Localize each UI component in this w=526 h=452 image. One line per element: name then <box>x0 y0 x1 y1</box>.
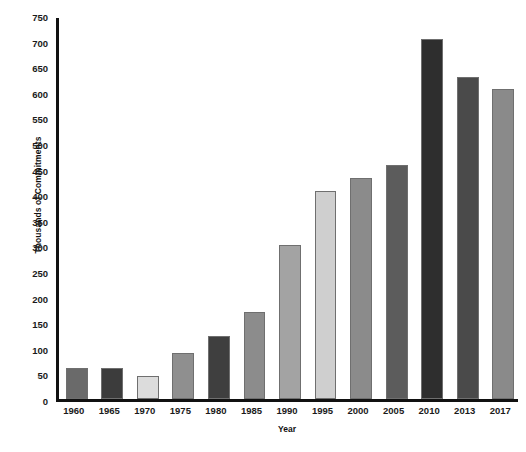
bar <box>66 368 88 399</box>
y-axis-tick-label: 200 <box>32 295 48 305</box>
y-axis-tick-label: 650 <box>32 64 48 74</box>
y-axis-tick-label: 0 <box>43 397 48 407</box>
bar <box>279 245 301 399</box>
x-axis-tick-labels: 1960196519701975198019851990199520002005… <box>56 405 518 421</box>
bar <box>315 191 337 399</box>
bars-layer <box>59 18 518 399</box>
bar <box>244 312 266 399</box>
y-axis-tick-label: 500 <box>32 141 48 151</box>
bar <box>421 39 443 399</box>
x-axis-title: Year <box>56 424 518 434</box>
x-axis-tick-label: 1965 <box>92 405 128 416</box>
x-axis-tick-label: 2010 <box>411 405 447 416</box>
bar <box>172 353 194 399</box>
x-axis-tick-label: 1970 <box>127 405 163 416</box>
y-axis-tick-label: 550 <box>32 115 48 125</box>
y-axis-tick-label: 300 <box>32 243 48 253</box>
x-axis-tick-label: 1960 <box>56 405 92 416</box>
x-axis-tick-label: 2017 <box>482 405 518 416</box>
y-axis-tick-label: 100 <box>32 346 48 356</box>
x-axis-tick-label: 2000 <box>340 405 376 416</box>
x-axis-tick-label: 2013 <box>447 405 483 416</box>
x-axis-tick-label: 1990 <box>269 405 305 416</box>
y-axis-tick-label: 50 <box>37 371 48 381</box>
bar <box>350 178 372 399</box>
bar <box>457 77 479 399</box>
y-axis-tick-labels: 0501001502002503003504004505005506006507… <box>0 0 52 452</box>
bar <box>208 336 230 399</box>
y-axis-tick-label: 700 <box>32 39 48 49</box>
bar <box>386 165 408 399</box>
y-axis-tick-label: 150 <box>32 320 48 330</box>
y-axis-tick-label: 400 <box>32 192 48 202</box>
y-axis-tick-label: 250 <box>32 269 48 279</box>
y-axis-tick-label: 450 <box>32 167 48 177</box>
y-axis-tick-label: 600 <box>32 90 48 100</box>
bar <box>492 89 514 399</box>
plot-area <box>56 18 518 402</box>
x-axis-tick-label: 1980 <box>198 405 234 416</box>
y-axis-tick-label: 350 <box>32 218 48 228</box>
x-axis-tick-label: 1975 <box>163 405 199 416</box>
bar <box>137 376 159 399</box>
x-axis-tick-label: 2005 <box>376 405 412 416</box>
x-axis-tick-label: 1995 <box>305 405 341 416</box>
x-axis-tick-label: 1985 <box>234 405 270 416</box>
y-axis-tick-label: 750 <box>32 13 48 23</box>
bar <box>101 368 123 399</box>
bar-chart: Thousands of Commitments 050100150200250… <box>0 0 526 452</box>
